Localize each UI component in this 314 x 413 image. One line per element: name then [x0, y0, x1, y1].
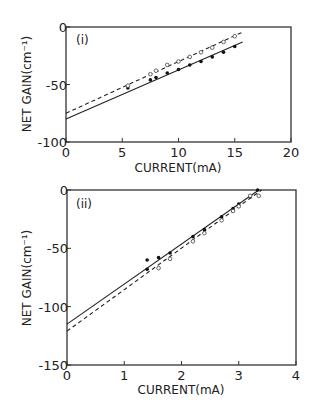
dashed-data-point [191, 240, 195, 244]
x-axis-label: CURRENT(mA) [135, 161, 222, 175]
chart-i: (i) CURRENT(mA) NET GAIN(cm⁻¹) 051015200… [20, 20, 299, 175]
solid-data-point [210, 55, 214, 59]
plot-frame [67, 190, 296, 365]
dashed-data-point [165, 63, 169, 67]
dashed-data-point [233, 34, 237, 38]
dashed-data-point [257, 194, 261, 198]
y-tick-label: -100 [38, 300, 68, 315]
dashed-data-point [154, 69, 158, 73]
dashed-data-point [177, 60, 181, 64]
dashed-data-point [220, 219, 224, 223]
x-axis-label: CURRENT(mA) [138, 383, 225, 397]
dashed-data-point [248, 194, 252, 198]
solid-data-point [222, 51, 226, 55]
chart-ii: (ii) CURRENT(mA) NET GAIN(cm⁻¹) 012340-5… [20, 183, 300, 397]
solid-data-point [177, 68, 181, 72]
dashed-data-point [168, 257, 172, 261]
solid-data-point [157, 256, 161, 260]
solid-data-point [233, 45, 237, 49]
dashed-data-point [210, 46, 214, 50]
panel-label: (ii) [76, 197, 92, 211]
x-tick-label: 20 [283, 145, 300, 160]
x-tick-label: 2 [177, 368, 185, 383]
y-tick-label: -50 [47, 241, 68, 256]
figure: (i) CURRENT(mA) NET GAIN(cm⁻¹) 051015200… [0, 0, 314, 413]
solid-data-point [145, 258, 149, 262]
solid-fit-line [66, 42, 243, 119]
dashed-data-point [231, 209, 235, 213]
dashed-data-point [199, 51, 203, 55]
panel-label: (i) [76, 33, 89, 47]
solid-data-point [256, 188, 260, 192]
y-tick-label: -150 [38, 358, 68, 373]
dashed-data-point [203, 231, 207, 235]
x-tick-label: 5 [118, 145, 126, 160]
y-tick-label: -50 [46, 78, 67, 93]
x-tick-label: 4 [292, 368, 300, 383]
y-axis-label: NET GAIN(cm⁻¹) [20, 230, 34, 327]
solid-data-point [199, 60, 203, 64]
dashed-data-point [188, 55, 192, 59]
dashed-data-point [237, 205, 241, 209]
y-tick-label: 0 [60, 183, 68, 198]
dashed-data-point [157, 266, 161, 270]
y-axis-label: NET GAIN(cm⁻¹) [20, 36, 34, 133]
x-tick-label: 10 [170, 145, 187, 160]
solid-data-point [145, 268, 149, 272]
solid-data-point [191, 235, 195, 239]
x-tick-label: 15 [226, 145, 243, 160]
dashed-data-point [149, 72, 153, 76]
plot-frame [66, 27, 291, 142]
x-tick-label: 1 [120, 368, 128, 383]
solid-data-point [165, 71, 169, 75]
solid-data-point [154, 76, 158, 80]
dashed-data-point [222, 40, 226, 44]
solid-fit-line [67, 190, 259, 324]
y-tick-label: -100 [37, 135, 67, 150]
solid-data-point [188, 63, 192, 67]
x-tick-label: 3 [235, 368, 243, 383]
solid-data-point [168, 251, 172, 255]
dashed-data-point [126, 84, 130, 88]
y-tick-label: 0 [59, 20, 67, 35]
solid-data-point [149, 78, 153, 82]
